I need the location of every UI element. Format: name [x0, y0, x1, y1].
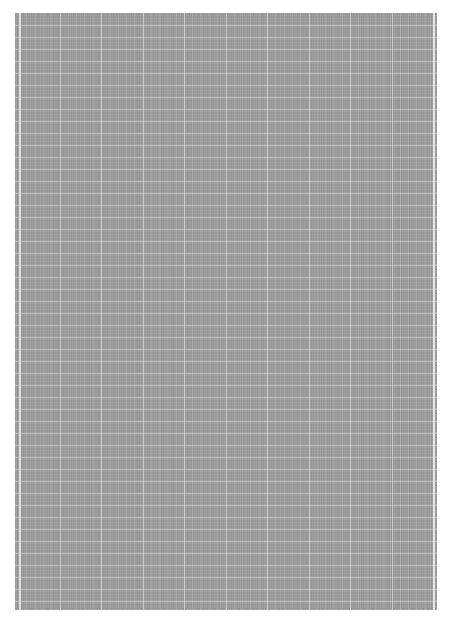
right-margin-line [433, 13, 435, 610]
graph-paper-sheet [15, 13, 437, 610]
major-vertical-grid-lines [15, 13, 437, 610]
left-margin-line [19, 13, 21, 610]
